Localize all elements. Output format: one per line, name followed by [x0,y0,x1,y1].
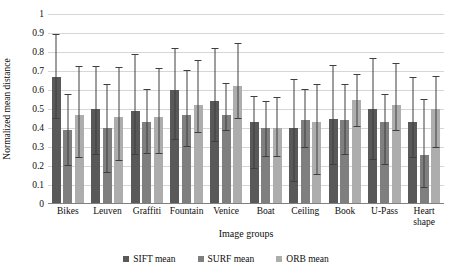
bar-slot [408,14,417,204]
y-axis-title-label: Normalized mean distance [2,58,12,159]
error-bar-cap [353,74,360,75]
error-bar [344,85,345,154]
error-bar-cap [76,66,83,67]
error-bar-cap [393,63,400,64]
bar-slot [392,14,401,204]
error-bar-cap [262,156,269,157]
error-bar-cap [155,153,162,154]
error-bar-cap [369,159,376,160]
legend-label: SIFT mean [133,254,175,264]
bar-slot [352,14,361,204]
bar-group [88,14,128,204]
bar-slot [273,14,282,204]
error-bar-cap [341,154,348,155]
error-bar-cap [234,43,241,44]
bar-slot [142,14,151,204]
bar-group [404,14,444,204]
bar-slot [52,14,61,204]
error-bar-cap [381,94,388,95]
bar-slot [103,14,112,204]
y-axis-tick-label: 0.2 [32,161,44,171]
error-bar [95,67,96,154]
error-bar [158,69,159,154]
y-axis-tick-label: 0.3 [32,142,44,152]
error-bar-cap [313,84,320,85]
error-bar-cap [274,156,281,157]
bar-slot [233,14,242,204]
bar-group [127,14,167,204]
bar-slot [222,14,231,204]
bar-slot [301,14,310,204]
legend-swatch-icon [198,256,204,262]
error-bar-cap [132,154,139,155]
error-bar [316,85,317,174]
legend-label: ORB mean [286,254,328,264]
error-bar-cap [211,141,218,142]
y-axis-tick-label: 1 [39,9,44,19]
error-bar [198,61,199,133]
legend-item[interactable]: SIFT mean [123,254,175,264]
legend-swatch-icon [276,256,282,262]
error-bar [424,100,425,187]
y-axis-tick-label: 0.5 [32,104,44,114]
bar-group [365,14,405,204]
error-bar [237,44,238,119]
bar-slot [250,14,259,204]
error-bar-cap [92,154,99,155]
y-axis-tick-label: 0.8 [32,47,44,57]
error-bar [396,64,397,131]
bar-slot [210,14,219,204]
y-axis-tick-label: 0.1 [32,180,44,190]
error-bar [79,67,80,158]
bar-slot [194,14,203,204]
error-bar-cap [381,164,388,165]
bar-group [246,14,286,204]
error-bar-cap [76,157,83,158]
error-bar-cap [53,34,60,35]
error-bar-cap [409,157,416,158]
legend-item[interactable]: ORB mean [276,254,328,264]
error-bar-cap [421,187,428,188]
bar-slot [182,14,191,204]
error-bar-cap [330,65,337,66]
error-bar [186,71,187,147]
error-bar-cap [195,60,202,61]
error-bar [435,77,436,148]
error-bar [277,98,278,158]
error-bar-cap [330,164,337,165]
error-bar [214,49,215,142]
bar-slot [261,14,270,204]
bar-slot [91,14,100,204]
chart-legend: SIFT meanSURF meanORB mean [0,254,452,264]
error-bar [135,55,136,155]
error-bar-cap [341,84,348,85]
error-bar-cap [64,165,71,166]
error-bar-cap [171,139,178,140]
error-bar-cap [143,89,150,90]
error-bar-cap [104,84,111,85]
bar-slot [368,14,377,204]
error-bar-cap [290,79,297,80]
y-axis-tick-label: 0.7 [32,66,44,76]
error-bar [265,102,266,157]
error-bar-cap [290,181,297,182]
y-axis-tick-labels: 10.90.80.70.60.50.40.30.20.10 [14,14,48,204]
error-bar-cap [234,118,241,119]
error-bar [56,35,57,120]
bar-group [167,14,207,204]
bar-slot [420,14,429,204]
error-bar [174,49,175,140]
bar-slot [431,14,440,204]
error-bar [305,90,306,148]
error-bar [356,75,357,127]
y-axis-tick-label: 0.4 [32,123,44,133]
bars-layer [48,14,444,204]
bar-chart: Normalized mean distance 10.90.80.70.60.… [0,0,452,278]
x-axis-baseline [48,203,444,204]
error-bar-cap [353,126,360,127]
bar-slot [131,14,140,204]
error-bar-cap [251,168,258,169]
error-bar-cap [143,153,150,154]
bar-slot [380,14,389,204]
legend-item[interactable]: SURF mean [198,254,255,264]
